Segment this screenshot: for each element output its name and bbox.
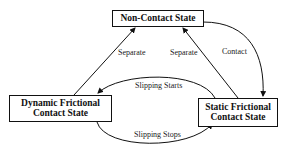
state-diagram: Non-Contact State Dynamic Frictional Con… [0, 0, 295, 156]
arrow-noncontact-to-static [203, 22, 263, 96]
label-slipping-starts: Slipping Starts [135, 81, 182, 90]
state-dynamic-label-line1: Dynamic Frictional [21, 99, 100, 109]
label-contact: Contact [222, 47, 247, 56]
state-dynamic-label-line2: Contact State [33, 109, 88, 119]
state-static-label-line1: Static Frictional [205, 103, 271, 113]
state-static-label-line2: Contact State [210, 113, 265, 123]
state-static-frictional: Static Frictional Contact State [198, 98, 278, 127]
state-non-contact-label: Non-Contact State [120, 14, 195, 24]
arrow-dynamic-to-noncontact [74, 28, 135, 95]
state-non-contact: Non-Contact State [112, 10, 204, 27]
state-dynamic-frictional: Dynamic Frictional Contact State [9, 95, 112, 122]
arrow-static-to-noncontact [183, 28, 238, 98]
label-separate-right: Separate [170, 48, 198, 57]
label-slipping-stops: Slipping Stops [134, 130, 181, 139]
label-separate-left: Separate [118, 48, 146, 57]
